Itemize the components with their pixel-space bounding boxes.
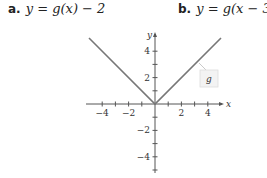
callout-line (199, 63, 206, 70)
y-axis-label: y (146, 30, 153, 40)
x-tick-label: −4 (96, 108, 110, 118)
function-label-g: g (199, 63, 218, 87)
function-label-text: g (206, 74, 212, 84)
y-tick-label: 2 (144, 73, 150, 83)
x-tick-label: 2 (179, 108, 185, 118)
x-axis-label: x (226, 99, 231, 109)
y-tick-label: 4 (144, 46, 150, 56)
axes (86, 32, 224, 173)
x-tick-label: −2 (122, 108, 135, 118)
y-axis-arrow-icon (153, 32, 157, 37)
x-tick-label: 4 (205, 108, 211, 118)
x-axis-arrow-icon (219, 102, 224, 106)
y-tick-label: −4 (137, 152, 151, 162)
graph-of-g: −4−22442−2−4xy g (0, 0, 267, 178)
y-tick-label: −2 (137, 125, 150, 135)
